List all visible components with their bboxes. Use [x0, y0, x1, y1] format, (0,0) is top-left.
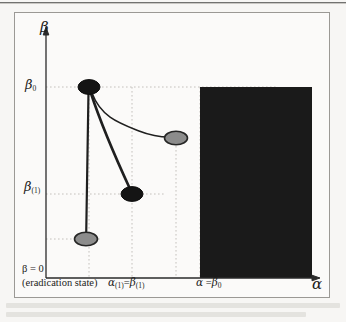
x-tick-alpha1-beta-subscript: (1): [136, 281, 145, 290]
x-axis-label: α: [312, 277, 322, 292]
y-tick-label-beta1: β(1): [24, 180, 40, 195]
x-tick-alpha1-subscript: (1): [115, 281, 124, 290]
origin-label-beta-zero: β = 0: [22, 264, 44, 275]
x-tick-label-alpha-beta0: α =β0: [196, 277, 221, 290]
nodes: [75, 80, 188, 246]
node-lower-gray: [75, 232, 98, 246]
node-beta1-alpha1: [121, 187, 143, 202]
trajectory-diagonal: [91, 92, 131, 190]
page-bleed-line-1: [6, 303, 340, 308]
y-tick-beta1-symbol: β: [24, 179, 32, 194]
shaded-region: [200, 87, 312, 278]
figure-frame: [14, 12, 330, 298]
trajectory-vertical: [86, 91, 88, 235]
node-beta0-alpha1: [78, 80, 100, 95]
origin-label-eradication-state: (eradication state): [22, 278, 98, 289]
trajectories: [86, 91, 173, 235]
y-tick-beta1-subscript: (1): [32, 186, 41, 195]
x-tick-alphabeta0-symbol: α: [196, 276, 203, 288]
x-tick-label-alpha1: α(1)=β(1): [108, 277, 145, 290]
figure-page: β α β0 β(1) β = 0 (eradication state) α(…: [0, 0, 346, 322]
y-tick-beta0-subscript: 0: [33, 84, 37, 93]
y-tick-beta0-symbol: β: [25, 77, 33, 92]
page-top-rule-shadow: [0, 3, 346, 4]
y-axis-label: β: [40, 20, 49, 35]
y-tick-label-beta0: β0: [25, 78, 36, 93]
x-tick-alphabeta0-beta-subscript: 0: [218, 281, 222, 290]
node-right-gray: [165, 131, 188, 145]
page-bleed-line-2: [6, 312, 306, 317]
diagram-canvas: [15, 13, 329, 297]
